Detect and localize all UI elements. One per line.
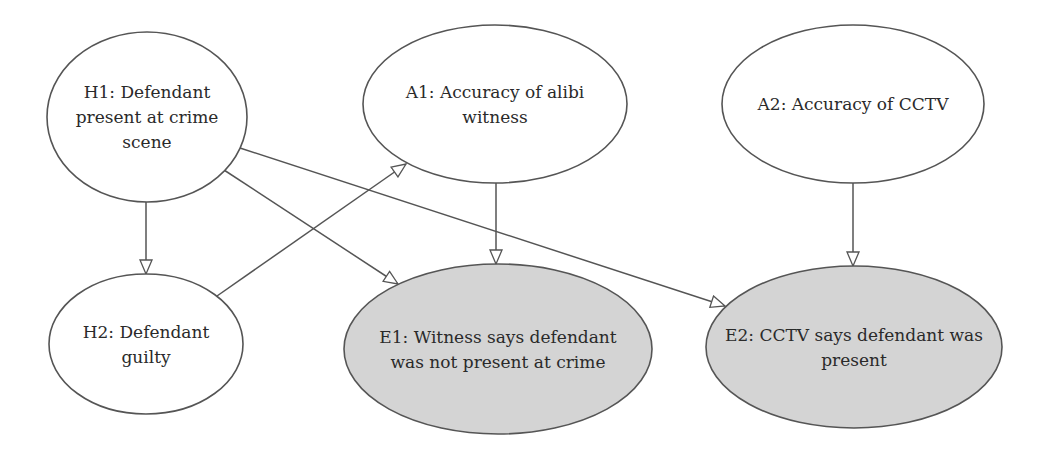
node-e2: E2: CCTV says defendant waspresent [706, 266, 1002, 428]
node-a1: A1: Accuracy of alibiwitness [363, 25, 627, 183]
node-a1-ellipse [363, 25, 627, 183]
node-h2-label-line: guilty [121, 347, 171, 367]
node-e2-label-line: present [821, 350, 887, 370]
node-e1-ellipse [344, 264, 652, 434]
bayesian-network-diagram: H1: Defendantpresent at crimesceneA1: Ac… [0, 0, 1048, 461]
node-h2-ellipse [49, 274, 243, 414]
node-a2-label-line: A2: Accuracy of CCTV [757, 94, 950, 114]
node-h1-label-line: scene [122, 132, 171, 152]
node-e2-ellipse [706, 266, 1002, 428]
node-a1-label-line: A1: Accuracy of alibi [405, 82, 585, 102]
node-e1-label-line: E1: Witness says defendant [379, 327, 616, 347]
node-h1-label-line: H1: Defendant [84, 82, 211, 102]
node-e2-label-line: E2: CCTV says defendant was [725, 325, 983, 345]
node-h1: H1: Defendantpresent at crimescene [47, 32, 247, 202]
node-h2-label-line: H2: Defendant [83, 322, 210, 342]
node-h1-label-line: present at crime [76, 107, 219, 127]
node-h2: H2: Defendantguilty [49, 274, 243, 414]
node-e1: E1: Witness says defendantwas not presen… [344, 264, 652, 434]
node-a1-label-line: witness [462, 107, 527, 127]
nodes: H1: Defendantpresent at crimesceneA1: Ac… [47, 25, 1002, 434]
node-e1-label-line: was not present at crime [391, 352, 606, 372]
node-a2: A2: Accuracy of CCTV [722, 25, 984, 183]
